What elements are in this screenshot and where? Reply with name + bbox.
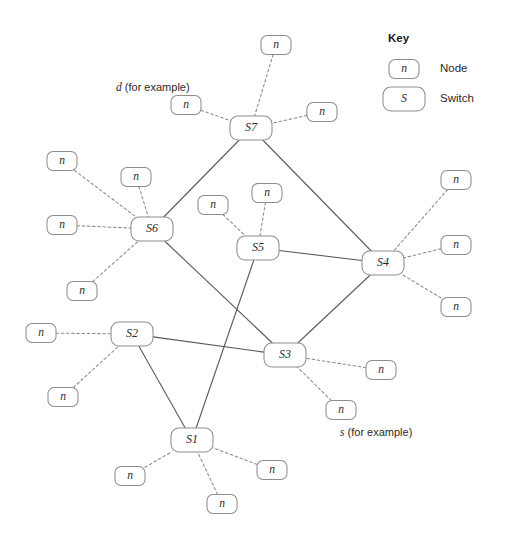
key-entry-switch: SSwitch xyxy=(383,87,474,111)
switch-box-s5[interactable]: S5 xyxy=(237,236,279,260)
key-switch-symbol: S xyxy=(401,91,407,105)
node-box[interactable]: n xyxy=(48,388,78,407)
node-link xyxy=(145,452,171,467)
switch-box-s2[interactable]: S2 xyxy=(111,322,153,346)
node-link xyxy=(255,55,274,117)
node-box[interactable]: n xyxy=(115,467,145,486)
node-link xyxy=(404,249,441,258)
node-link xyxy=(77,226,131,228)
node-label: n xyxy=(219,497,225,509)
key-legend: KeynNodeSSwitch xyxy=(383,32,474,111)
switch-box-s4[interactable]: S4 xyxy=(362,251,404,275)
switch-label: S3 xyxy=(279,347,291,361)
node-link xyxy=(213,448,257,465)
node-box[interactable]: n xyxy=(67,282,97,301)
switch-box-s3[interactable]: S3 xyxy=(264,343,306,367)
node-box[interactable]: n xyxy=(26,324,56,343)
node-box[interactable]: n xyxy=(121,168,151,187)
annot-s: s (for example) xyxy=(340,426,412,438)
node-link xyxy=(223,215,246,237)
node-box[interactable]: n xyxy=(261,36,291,55)
key-node-symbol: n xyxy=(401,62,407,74)
node-label: n xyxy=(264,186,270,198)
switch-link xyxy=(153,337,264,352)
switch-label: S6 xyxy=(146,221,158,235)
node-link xyxy=(306,358,366,367)
node-box[interactable]: n xyxy=(207,495,237,514)
node-label: n xyxy=(183,98,189,110)
node-box[interactable]: n xyxy=(257,461,287,480)
annot-d-suffix: (for example) xyxy=(122,81,190,93)
network-diagram: nnnnnnnnnnnnnnnnnnn S1S2S3S4S5S6S7 d (fo… xyxy=(0,0,505,546)
node-label: n xyxy=(319,105,325,117)
node-label: n xyxy=(79,284,85,296)
switch-box-s6[interactable]: S6 xyxy=(131,217,173,241)
node-link xyxy=(93,241,139,282)
switch-link xyxy=(279,251,362,261)
annot-s-suffix: (for example) xyxy=(344,426,412,438)
node-box[interactable]: n xyxy=(441,236,471,255)
node-label: n xyxy=(453,238,459,250)
node-link xyxy=(394,190,448,252)
node-link xyxy=(73,346,118,388)
node-box[interactable]: n xyxy=(171,96,201,115)
switch-box-s7[interactable]: S7 xyxy=(230,116,272,140)
node-link xyxy=(198,452,218,495)
switch-label: S2 xyxy=(126,326,138,340)
key-heading: Key xyxy=(388,32,410,44)
node-label: n xyxy=(210,198,216,210)
node-label: n xyxy=(127,469,133,481)
key-switch-label: Switch xyxy=(440,92,474,104)
node-label: n xyxy=(453,173,459,185)
node-box[interactable]: n xyxy=(366,361,396,380)
node-label: n xyxy=(338,403,344,415)
node-box[interactable]: n xyxy=(47,152,77,171)
node-label: n xyxy=(38,326,44,338)
node-label: n xyxy=(269,463,275,475)
switch-label: S5 xyxy=(252,240,264,254)
node-label: n xyxy=(59,218,65,230)
switch-link xyxy=(298,275,370,343)
node-label: n xyxy=(273,38,279,50)
diagram-canvas: nnnnnnnnnnnnnnnnnnn S1S2S3S4S5S6S7 d (fo… xyxy=(0,0,505,546)
switch-link-layer xyxy=(139,140,371,428)
annot-d: d (for example) xyxy=(116,81,190,93)
node-link xyxy=(139,187,148,218)
node-label: n xyxy=(59,154,65,166)
node-link xyxy=(201,110,230,120)
node-label: n xyxy=(453,300,459,312)
node-box[interactable]: n xyxy=(198,196,228,215)
node-link xyxy=(403,275,441,298)
node-link xyxy=(56,333,111,334)
switch-link xyxy=(139,346,185,428)
node-box[interactable]: n xyxy=(441,298,471,317)
node-box[interactable]: n xyxy=(326,401,356,420)
node-label: n xyxy=(378,363,384,375)
switch-label: S4 xyxy=(377,255,389,269)
node-box[interactable]: n xyxy=(47,216,77,235)
key-node-label: Node xyxy=(440,62,468,74)
node-box[interactable]: n xyxy=(252,184,282,203)
key-entry-node: nNode xyxy=(389,60,468,79)
node-link xyxy=(260,203,265,237)
node-link xyxy=(272,115,307,123)
switch-box-s1[interactable]: S1 xyxy=(171,428,213,452)
switch-label: S1 xyxy=(186,432,198,446)
node-box[interactable]: n xyxy=(441,171,471,190)
node-link xyxy=(297,367,331,401)
node-label: n xyxy=(60,390,66,402)
node-box[interactable]: n xyxy=(307,103,337,122)
node-label: n xyxy=(133,170,139,182)
switch-label: S7 xyxy=(245,120,258,134)
